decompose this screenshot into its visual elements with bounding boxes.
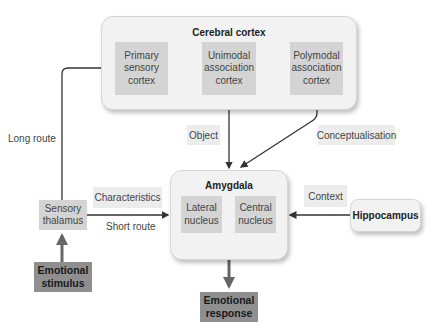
emotional-stimulus: Emotional stimulus <box>34 262 92 292</box>
amygdala-title: Amygdala <box>171 180 287 191</box>
object-label: Object <box>187 125 220 145</box>
hippocampus-label: Hippocampus <box>352 210 418 221</box>
sensory-thalamus: Sensory thalamus <box>39 200 87 230</box>
cerebral-cortex-title: Cerebral cortex <box>102 27 356 38</box>
context-label: Context <box>304 185 347 207</box>
characteristics-label: Characteristics <box>93 187 162 208</box>
central-nucleus: Central nucleus <box>235 196 276 233</box>
long-route-label: Long route <box>8 133 56 144</box>
short-route-label: Short route <box>106 221 155 232</box>
emotional-response: Emotional response <box>200 292 258 322</box>
polymodal-association-cortex: Polymodal association cortex <box>290 42 343 95</box>
hippocampus-box: Hippocampus <box>350 199 421 232</box>
conceptualisation-label: Conceptualisation <box>318 125 395 145</box>
primary-sensory-cortex: Primary sensory cortex <box>115 42 168 95</box>
lateral-nucleus: Lateral nucleus <box>181 196 222 233</box>
unimodal-association-cortex: Unimodal association cortex <box>202 42 256 95</box>
